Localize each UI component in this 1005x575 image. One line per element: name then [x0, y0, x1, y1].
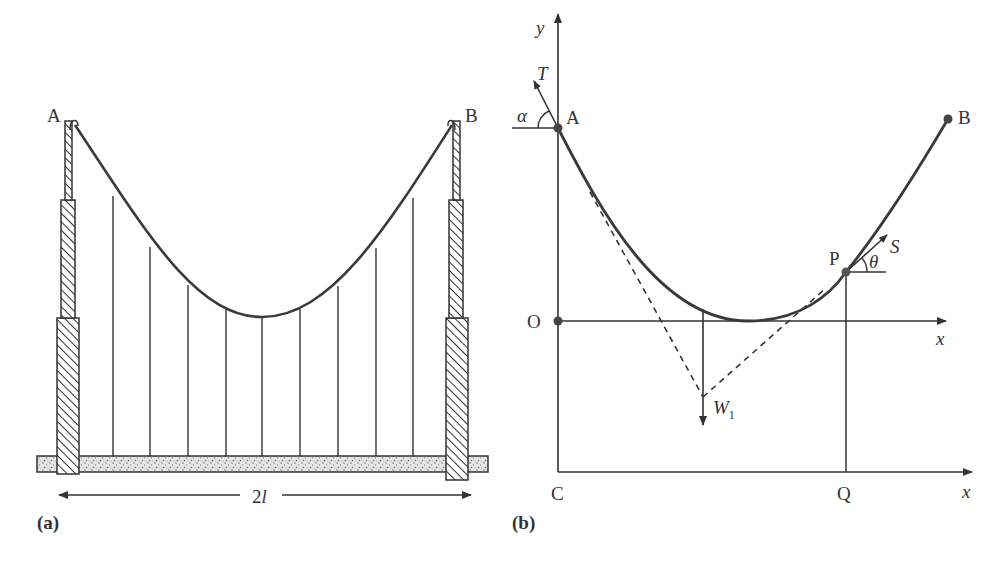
angle-alpha-arc [538, 111, 549, 128]
angle-theta-arc [862, 258, 867, 272]
label-a-left: A [47, 105, 61, 126]
left-tower [57, 120, 79, 474]
panel-a-bridge: A B 2l (a) [37, 105, 488, 534]
label-o: O [527, 311, 541, 332]
y-axis-label: y [534, 17, 545, 38]
caption-b: (b) [512, 512, 535, 534]
x-axis-upper-label: x [935, 328, 945, 349]
cable-curve [558, 119, 948, 321]
x-axis-lower-label: x [961, 481, 971, 502]
tangent-dashed-a [590, 192, 703, 397]
tension-t-label: T [537, 63, 549, 84]
tension-t-arrow [534, 81, 558, 128]
point-p [842, 268, 851, 277]
point-o [554, 317, 563, 326]
weight-label: W1 [713, 397, 735, 422]
tension-s-label: S [890, 236, 900, 257]
point-b [944, 115, 953, 124]
label-q: Q [837, 483, 851, 504]
panel-b-free-body: y x x W1 T α S θ [512, 14, 972, 534]
label-c: C [551, 483, 564, 504]
angle-theta-label: θ [869, 251, 878, 272]
right-tower [446, 120, 468, 480]
span-label: 2l [252, 486, 267, 507]
label-b: B [958, 107, 971, 128]
tangent-dashed-p [703, 288, 826, 397]
hangers [113, 196, 413, 456]
point-a [554, 124, 563, 133]
label-a: A [566, 107, 580, 128]
main-cable [75, 125, 452, 317]
label-b-right: B [465, 105, 478, 126]
bridge-deck [37, 456, 488, 472]
angle-alpha-label: α [517, 105, 528, 126]
label-p: P [829, 248, 840, 269]
figure-canvas: A B 2l (a) y x x W1 [0, 0, 1005, 575]
caption-a: (a) [37, 512, 59, 534]
